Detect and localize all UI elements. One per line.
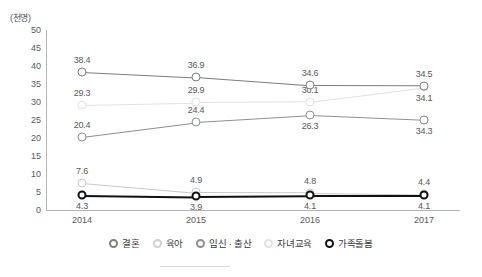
- data-point-label: 4.1: [418, 201, 430, 211]
- data-point: [306, 81, 315, 90]
- y-axis-tick: 5: [36, 187, 41, 197]
- data-point: [78, 190, 87, 199]
- series-line-segment: [310, 85, 424, 86]
- legend-item-1[interactable]: 결혼: [109, 236, 139, 250]
- data-point: [420, 81, 429, 90]
- data-point-label: 4.8: [304, 176, 316, 186]
- legend-item-5[interactable]: 가족돌봄: [325, 236, 373, 250]
- legend-marker-circle-icon: [109, 239, 118, 248]
- y-axis-tick: 40: [31, 61, 41, 71]
- legend-marker-circle-icon: [196, 239, 205, 248]
- data-point: [78, 132, 87, 141]
- chart-legend: 결혼육아임신 · 출산자녀교육가족돌봄: [0, 236, 482, 250]
- data-point-label: 26.3: [302, 121, 319, 131]
- series-line-segment: [82, 102, 196, 105]
- data-point-label: 7.6: [76, 166, 88, 176]
- data-point-label: 4.9: [190, 175, 202, 185]
- y-axis-tick: 20: [31, 133, 41, 143]
- legend-marker-circle-icon: [325, 239, 334, 248]
- y-axis-tick: 50: [31, 25, 41, 35]
- series-line-segment: [196, 195, 310, 198]
- data-point: [306, 97, 315, 106]
- series-line-segment: [82, 195, 196, 198]
- data-point-label: 34.3: [416, 126, 433, 136]
- y-axis-tick: 0: [36, 205, 41, 215]
- x-axis-tick: 2014: [72, 215, 92, 225]
- data-point-label: 24.4: [188, 105, 205, 115]
- data-point: [306, 111, 315, 120]
- legend-label: 육아: [166, 236, 183, 250]
- x-axis-line: [46, 210, 460, 211]
- series-line-segment: [310, 115, 424, 121]
- x-axis-tick: 2016: [300, 215, 320, 225]
- legend-marker-circle-icon: [153, 239, 162, 248]
- series-line-segment: [310, 87, 424, 102]
- data-point: [192, 73, 201, 82]
- data-point-label: 4.1: [304, 201, 316, 211]
- legend-item-2[interactable]: 육아: [153, 236, 183, 250]
- series-line-segment: [82, 183, 196, 194]
- data-point-label: 34.5: [416, 69, 433, 79]
- data-point-label: 4.3: [76, 201, 88, 211]
- legend-label: 자녀교육: [277, 236, 312, 250]
- data-point: [420, 116, 429, 125]
- data-point: [306, 191, 315, 200]
- data-point-label: 34.6: [302, 68, 319, 78]
- legend-label: 임신 · 출산: [209, 236, 251, 250]
- data-point: [78, 100, 87, 109]
- footer-divider: [160, 266, 230, 267]
- legend-label: 가족돌봄: [338, 236, 373, 250]
- legend-label: 결혼: [122, 236, 139, 250]
- data-point-label: 29.3: [74, 88, 91, 98]
- series-line-segment: [82, 122, 196, 137]
- series-line-segment: [310, 195, 424, 197]
- y-axis-tick: 10: [31, 169, 41, 179]
- series-line-segment: [196, 102, 310, 104]
- data-point: [78, 67, 87, 76]
- series-line-segment: [196, 192, 310, 193]
- data-point-label: 29.9: [188, 85, 205, 95]
- series-line-segment: [196, 77, 310, 86]
- legend-marker-circle-icon: [264, 239, 273, 248]
- data-point: [78, 178, 87, 187]
- data-point-label: 36.9: [188, 60, 205, 70]
- y-axis-tick: 15: [31, 151, 41, 161]
- series-line-segment: [82, 72, 196, 78]
- data-point: [192, 118, 201, 127]
- y-axis-unit-label: (천명): [10, 11, 31, 24]
- data-point-label: 4.4: [418, 177, 430, 187]
- legend-item-4[interactable]: 자녀교육: [264, 236, 312, 250]
- x-axis-tick: 2015: [186, 215, 206, 225]
- data-point-label: 34.1: [416, 93, 433, 103]
- data-point-label: 20.4: [74, 120, 91, 130]
- data-point: [192, 191, 201, 200]
- y-axis-tick: 45: [31, 43, 41, 53]
- y-axis-tick: 30: [31, 97, 41, 107]
- y-axis-tick: 35: [31, 79, 41, 89]
- y-axis-tick: 25: [31, 115, 41, 125]
- series-line-segment: [196, 115, 310, 123]
- plot-area: 29.329.930.134.17.64.94.84.420.424.426.3…: [46, 30, 460, 210]
- data-point: [420, 191, 429, 200]
- x-axis-tick: 2017: [414, 215, 434, 225]
- legend-item-3[interactable]: 임신 · 출산: [196, 236, 251, 250]
- chart-container: (천명) 50454035302520151050 29.329.930.134…: [0, 0, 482, 277]
- data-point-label: 38.4: [74, 55, 91, 65]
- data-point-label: 3.9: [190, 202, 202, 212]
